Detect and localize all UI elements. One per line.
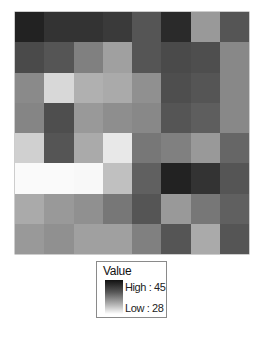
heatmap-cell (132, 194, 161, 224)
heatmap-cell (161, 133, 190, 163)
heatmap-cell (132, 73, 161, 103)
heatmap-cell (132, 103, 161, 133)
heatmap-cell (15, 12, 44, 42)
heatmap-cell (103, 12, 132, 42)
legend-high-label: High : 45 (125, 281, 165, 293)
heatmap-cell (161, 73, 190, 103)
heatmap-cell (191, 103, 220, 133)
heatmap-cell (161, 194, 190, 224)
heatmap-cell (44, 103, 73, 133)
heatmap-grid (15, 12, 249, 254)
heatmap-cell (74, 12, 103, 42)
heatmap-cell (220, 163, 249, 193)
heatmap-cell (132, 12, 161, 42)
heatmap-cell (44, 133, 73, 163)
heatmap-cell (103, 133, 132, 163)
heatmap-cell (220, 73, 249, 103)
heatmap-cell (220, 103, 249, 133)
heatmap-cell (191, 163, 220, 193)
heatmap-cell (74, 133, 103, 163)
heatmap-cell (161, 42, 190, 72)
heatmap-cell (15, 194, 44, 224)
heatmap-cell (74, 103, 103, 133)
heatmap-cell (103, 103, 132, 133)
heatmap-cell (44, 194, 73, 224)
heatmap-cell (103, 42, 132, 72)
legend-low-label: Low : 28 (125, 302, 163, 314)
heatmap-cell (132, 163, 161, 193)
heatmap-cell (44, 12, 73, 42)
heatmap-cell (191, 73, 220, 103)
heatmap-cell (15, 42, 44, 72)
heatmap-cell (15, 103, 44, 133)
heatmap-cell (191, 133, 220, 163)
heatmap-cell (191, 12, 220, 42)
legend-title: Value (103, 264, 131, 278)
heatmap-cell (103, 73, 132, 103)
heatmap-cell (15, 224, 44, 254)
heatmap-cell (161, 224, 190, 254)
heatmap-cell (74, 224, 103, 254)
heatmap-cell (15, 163, 44, 193)
heatmap-cell (44, 73, 73, 103)
heatmap-cell (191, 224, 220, 254)
heatmap-cell (44, 42, 73, 72)
heatmap-cell (191, 42, 220, 72)
heatmap-cell (220, 194, 249, 224)
heatmap-cell (191, 194, 220, 224)
heatmap-cell (44, 224, 73, 254)
legend: Value High : 45 Low : 28 (96, 261, 167, 318)
heatmap-cell (15, 133, 44, 163)
heatmap-cell (161, 163, 190, 193)
heatmap-cell (220, 42, 249, 72)
heatmap-cell (15, 73, 44, 103)
legend-color-ramp (105, 280, 123, 314)
heatmap-cell (220, 224, 249, 254)
heatmap-cell (132, 224, 161, 254)
heatmap-cell (132, 42, 161, 72)
heatmap-cell (103, 163, 132, 193)
heatmap-cell (103, 224, 132, 254)
heatmap-cell (161, 12, 190, 42)
heatmap-cell (74, 73, 103, 103)
heatmap-cell (220, 133, 249, 163)
heatmap-cell (44, 163, 73, 193)
heatmap-cell (74, 194, 103, 224)
heatmap-cell (74, 163, 103, 193)
heatmap-cell (220, 12, 249, 42)
heatmap-cell (161, 103, 190, 133)
heatmap-cell (74, 42, 103, 72)
heatmap-cell (132, 133, 161, 163)
heatmap-cell (103, 194, 132, 224)
